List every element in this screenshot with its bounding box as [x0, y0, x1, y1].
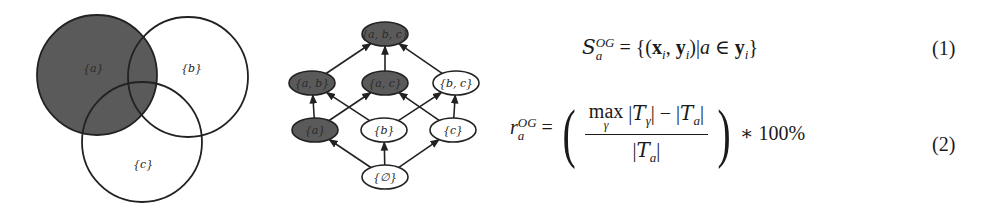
lattice-node-label: {b} — [373, 124, 394, 137]
lattice-node-a: {a} — [292, 118, 338, 142]
lattice-node-bc: {b, c} — [433, 71, 479, 95]
eq1-equals: = — [619, 36, 630, 58]
lattice-edge-empty-to-c — [399, 140, 439, 168]
lattice-edge-a-to-ac — [329, 92, 371, 120]
lattice-edge-c-to-bc — [454, 95, 455, 118]
eq2-left-paren: ( — [562, 100, 575, 166]
lattice-edges — [313, 43, 455, 167]
subset-lattice-diagram: {a, b, c}{a, b}{a, c}{b, c}{a}{b}{c}{∅} — [0, 0, 986, 222]
eq1-lhs-symbol: S — [582, 35, 596, 59]
equation-1-number: (1) — [932, 37, 955, 60]
eq1-rhs: {(xi, yi)|a ∈ yi} — [636, 36, 758, 58]
equation-2-number: (2) — [932, 133, 955, 156]
eq2-lhs-symbol: r — [510, 116, 518, 138]
lattice-edge-empty-to-a — [329, 139, 371, 167]
eq2-multiplier: ∗ 100% — [740, 122, 805, 144]
eq2-denominator: |Ta| — [585, 135, 708, 166]
lattice-node-label: {a} — [305, 124, 326, 137]
lattice-node-abc: {a, b, c} — [361, 22, 409, 46]
lattice-node-empty: {∅} — [362, 165, 408, 189]
lattice-node-ab: {a, b} — [289, 71, 335, 95]
lattice-node-label: {a, b, c} — [361, 28, 409, 41]
lattice-edge-b-to-ab — [326, 92, 369, 120]
lattice-node-label: {∅} — [373, 171, 397, 184]
eq2-lhs-sub: a — [518, 129, 537, 142]
equation-1: SOGa = {(xi, yi)|a ∈ yi} — [582, 35, 758, 63]
lattice-node-label: {b, c} — [439, 77, 473, 90]
lattice-node-b: {b} — [361, 118, 407, 142]
eq2-equals: = — [542, 116, 553, 138]
lattice-edge-ab-to-abc — [326, 43, 371, 73]
lattice-node-label: {a, c} — [368, 77, 402, 90]
eq2-numerator: maxγ |Tγ| − |Ta| — [585, 101, 708, 135]
eq2-fraction: maxγ |Tγ| − |Ta| |Ta| — [585, 101, 708, 166]
lattice-node-label: {a, b} — [295, 77, 330, 90]
eq1-lhs-sub: a — [596, 49, 615, 62]
lattice-node-ac: {a, c} — [362, 71, 408, 95]
lattice-edge-bc-to-abc — [399, 44, 442, 74]
lattice-node-label: {c} — [443, 124, 463, 137]
eq2-right-paren: ) — [717, 100, 730, 166]
lattice-node-c: {c} — [430, 118, 476, 142]
equation-2: rOGa = ( maxγ |Tγ| − |Ta| |Ta| ) ∗ 100% — [510, 100, 805, 190]
lattice-edge-a-to-ab — [313, 95, 314, 118]
